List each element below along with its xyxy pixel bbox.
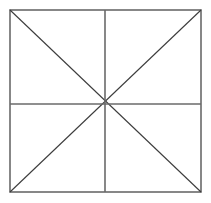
- figure-canvas: [0, 0, 211, 203]
- square-cross-diagonals-figure: [0, 0, 211, 203]
